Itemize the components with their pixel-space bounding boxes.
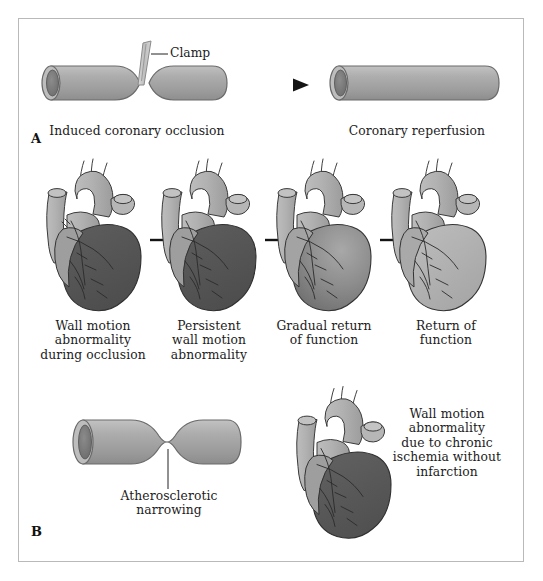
- aorta: [325, 399, 363, 445]
- clamp-label: Clamp: [170, 46, 210, 60]
- vessel-body-open: [339, 66, 499, 100]
- heart-caption-3: Gradual return of function: [258, 319, 390, 348]
- vessel-lumen: [335, 70, 347, 96]
- heart-diagram-2: [152, 157, 264, 317]
- heart-diagram-1: [37, 157, 149, 317]
- heart-caption-4: Return of function: [387, 319, 505, 348]
- vessel-lumen: [79, 425, 92, 459]
- panel-letter-b: B: [31, 524, 42, 539]
- arrow-occlusion-to-reperfusion: [265, 75, 311, 95]
- atherosclerotic-narrowing-label: Atherosclerotic narrowing: [97, 489, 241, 518]
- vessel-lumen: [47, 70, 59, 96]
- heart-diagram-4: [382, 157, 494, 317]
- vessel-segment-right: [149, 66, 227, 100]
- aorta: [305, 171, 343, 217]
- vessel-segment-left: [51, 66, 140, 100]
- heart-caption-1: Wall motion abnormality during occlusion: [27, 319, 159, 362]
- aorta: [420, 171, 458, 217]
- stenotic-vessel-illustration: [69, 404, 269, 484]
- figure-frame: A: [18, 18, 524, 562]
- reperfused-vessel-illustration: [325, 47, 515, 127]
- occluded-vessel-illustration: [37, 37, 267, 133]
- vessel-body-stenotic: [83, 420, 241, 464]
- chronic-ischemia-caption: Wall motion abnormality due to chronic i…: [377, 407, 517, 479]
- heart-diagram-3: [267, 157, 379, 317]
- induced-occlusion-caption: Induced coronary occlusion: [29, 124, 245, 138]
- coronary-reperfusion-caption: Coronary reperfusion: [319, 124, 515, 138]
- heart-caption-2: Persistent wall motion abnormality: [143, 319, 275, 362]
- aorta: [190, 171, 228, 217]
- aorta: [75, 171, 113, 217]
- clamp-icon: [138, 41, 151, 85]
